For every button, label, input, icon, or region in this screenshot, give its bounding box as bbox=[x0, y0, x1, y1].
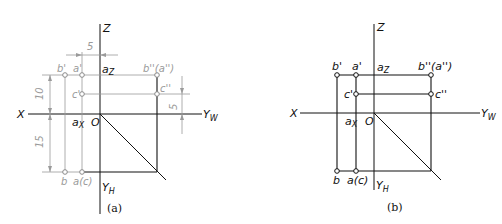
point-b-dprime-b bbox=[429, 73, 434, 78]
point-b-b bbox=[335, 169, 340, 174]
dim-left-lower-label-a: 15 bbox=[34, 135, 45, 148]
label-b-prime-a: b' bbox=[57, 63, 66, 74]
label-yw-a: YW bbox=[203, 108, 219, 123]
arrow-icon bbox=[48, 75, 52, 81]
point-c-prime-a bbox=[80, 92, 85, 97]
dim-left-upper-label-a: 10 bbox=[34, 87, 45, 100]
point-c-prime-b bbox=[354, 92, 359, 97]
label-a-c-a: a(c) bbox=[73, 176, 92, 187]
point-c-dprime-a bbox=[155, 92, 160, 97]
figure-b: Z X YW YH O aZ aX b' a' c' b''(a'') c'' … bbox=[289, 21, 497, 214]
label-x-a: X bbox=[16, 108, 25, 121]
label-c-dprime-a: c'' bbox=[160, 83, 171, 94]
arrow-icon bbox=[180, 114, 184, 120]
label-b-b: b bbox=[333, 174, 340, 187]
point-a-c-a bbox=[80, 170, 85, 175]
label-b-prime-b: b' bbox=[332, 60, 342, 73]
point-a-c-b bbox=[354, 169, 359, 174]
point-b-a bbox=[63, 170, 68, 175]
caption-a: (a) bbox=[107, 202, 122, 215]
figure-a: 5 10 15 5 Z X YW YH O aZ aX b' a' c' b''… bbox=[16, 22, 219, 215]
label-az-b: aZ bbox=[377, 61, 390, 75]
arrow-icon bbox=[48, 166, 52, 172]
label-yw-b: YW bbox=[481, 107, 497, 122]
label-z-b: Z bbox=[376, 21, 385, 34]
label-az-a: aZ bbox=[102, 63, 115, 77]
label-x-b: X bbox=[289, 107, 298, 120]
label-c-prime-a: c' bbox=[72, 89, 80, 100]
dim-right-label-a: 5 bbox=[168, 104, 179, 110]
label-ax-a: aX bbox=[72, 116, 85, 130]
projection-diagrams: 5 10 15 5 Z X YW YH O aZ aX b' a' c' b''… bbox=[0, 0, 502, 224]
label-a-prime-a: a' bbox=[73, 63, 82, 74]
label-c-dprime-b: c'' bbox=[435, 88, 447, 101]
caption-b: (b) bbox=[387, 201, 403, 214]
arrow-icon bbox=[48, 108, 52, 114]
label-origin-b: O bbox=[365, 115, 374, 128]
point-b-prime-b bbox=[335, 73, 340, 78]
label-origin-a: O bbox=[91, 116, 100, 129]
diagonal-45-a bbox=[100, 114, 166, 180]
label-a-c-b: a(c) bbox=[347, 174, 368, 187]
label-a-prime-b: a' bbox=[352, 60, 362, 73]
dim-top-label-a: 5 bbox=[87, 41, 93, 52]
label-b-dprime-a: b''(a'') bbox=[143, 63, 174, 74]
label-b-a: b bbox=[61, 176, 67, 187]
label-z-a: Z bbox=[102, 22, 111, 35]
arrow-icon bbox=[76, 53, 82, 57]
arrow-icon bbox=[100, 53, 106, 57]
label-b-dprime-b: b''(a'') bbox=[418, 60, 452, 73]
arrow-icon bbox=[180, 88, 184, 94]
label-c-prime-b: c' bbox=[344, 88, 353, 101]
point-a-prime-b bbox=[354, 73, 359, 78]
point-c-dprime-b bbox=[429, 92, 434, 97]
label-yh-a: YH bbox=[102, 181, 115, 196]
label-yh-b: YH bbox=[376, 179, 389, 194]
arrow-icon bbox=[48, 114, 52, 120]
